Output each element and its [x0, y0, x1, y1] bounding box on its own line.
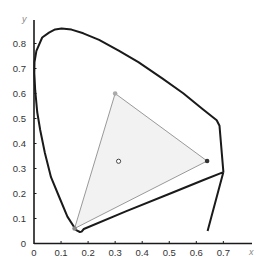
x-tick-label: 0 [31, 247, 36, 258]
x-tick-label: 0.6 [190, 247, 203, 258]
red-primary-marker [205, 159, 210, 164]
y-axis-tick-labels: 00.10.20.30.40.50.60.70.8 [13, 38, 26, 249]
white-point-marker [116, 159, 120, 163]
y-tick-label: 0.4 [13, 138, 26, 149]
y-tick-label: 0 [21, 238, 26, 249]
y-tick-label: 0.2 [13, 188, 26, 199]
green-primary-marker [113, 91, 118, 96]
y-tick-label: 0.3 [13, 163, 26, 174]
x-axis-label: x [248, 247, 254, 257]
y-axis-label: y [21, 14, 27, 24]
srgb-gamut-triangle [75, 94, 208, 229]
y-tick-label: 0.7 [13, 63, 26, 74]
x-tick-label: 0.4 [136, 247, 149, 258]
y-tick-label: 0.5 [13, 113, 26, 124]
x-tick-label: 0.5 [163, 247, 176, 258]
x-tick-label: 0.7 [217, 247, 230, 258]
x-tick-label: 0.1 [54, 247, 67, 258]
chromaticity-diagram: 00.10.20.30.40.50.60.70.8 00.10.20.30.40… [0, 0, 267, 266]
y-tick-label: 0.1 [13, 213, 26, 224]
blue-primary-marker [72, 226, 77, 231]
y-tick-label: 0.8 [13, 38, 26, 49]
x-tick-label: 0.3 [109, 247, 122, 258]
x-tick-label: 0.2 [81, 247, 94, 258]
y-tick-label: 0.6 [13, 88, 26, 99]
x-axis-tick-labels: 00.10.20.30.40.50.60.7 [31, 247, 230, 258]
